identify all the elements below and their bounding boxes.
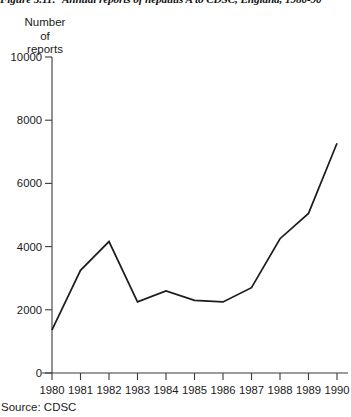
- x-axis-tick-marks: [52, 373, 337, 380]
- x-tick-label: 1980: [39, 384, 64, 396]
- chart-svg: 0200040006000800010000 19801981198219831…: [0, 0, 351, 400]
- source-note: Source: CDSC: [1, 401, 76, 413]
- x-tick-label: 1989: [296, 384, 321, 396]
- x-axis-tick-labels: 1980198119821983198419851986198719881989…: [39, 384, 349, 396]
- y-tick-label: 4000: [17, 241, 42, 253]
- x-tick-label: 1988: [267, 384, 292, 396]
- x-tick-label: 1981: [68, 384, 93, 396]
- x-tick-label: 1982: [96, 384, 121, 396]
- y-axis-tick-labels: 0200040006000800010000: [11, 51, 42, 379]
- y-axis-tick-marks: [45, 57, 52, 373]
- x-tick-label: 1986: [210, 384, 235, 396]
- y-tick-label: 10000: [11, 51, 42, 63]
- x-tick-label: 1984: [153, 384, 178, 396]
- y-tick-label: 2000: [17, 304, 42, 316]
- x-tick-label: 1987: [239, 384, 264, 396]
- x-tick-label: 1985: [182, 384, 207, 396]
- x-tick-label: 1983: [125, 384, 150, 396]
- data-series-line: [52, 143, 337, 330]
- x-tick-label: 1990: [324, 384, 349, 396]
- y-tick-label: 8000: [17, 114, 42, 126]
- y-tick-label: 0: [36, 367, 42, 379]
- line-chart-plot-area: 0200040006000800010000 19801981198219831…: [0, 0, 351, 400]
- y-tick-label: 6000: [17, 177, 42, 189]
